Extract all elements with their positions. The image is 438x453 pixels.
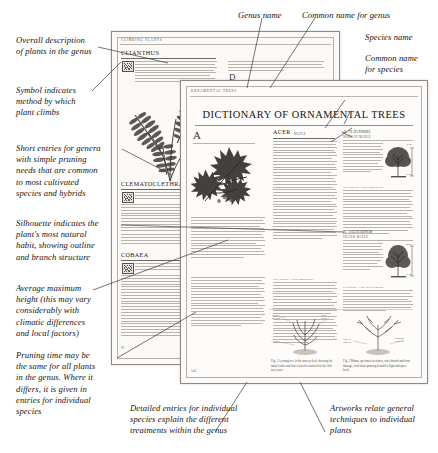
callout-common-name-genus: Common name for genus <box>302 10 390 21</box>
species-rule-1 <box>343 140 413 141</box>
species-text-2 <box>343 243 383 271</box>
genus-head-clematoclethra: CLEMATOCLETHRA <box>121 180 184 187</box>
artwork-caption-fig2: Fig. 2 Mature specimen in winter, after … <box>343 359 413 373</box>
callout-artworks: Artworks relate general techniques to in… <box>330 403 436 437</box>
species-head-platanoides: A. platanoides <box>343 129 371 134</box>
svg-text:wood cut: wood cut <box>395 340 404 343</box>
species-head-saccharinum: A. saccharinum <box>343 229 372 234</box>
callout-common-name-species: Common name for species <box>365 53 435 75</box>
artwork-training-fig1: Removecrossing Mainleader Cut back <box>271 311 339 357</box>
svg-text:leader: leader <box>321 317 327 320</box>
acer-genus-description <box>273 141 337 241</box>
callout-genus-name: Genus name <box>238 10 282 21</box>
book-page-ornamental-trees: ORNAMENTAL TREES DICTIONARY OF ORNAMENTA… <box>180 80 428 384</box>
species-common-name-norway-maple: NORWAY MAPLE <box>343 135 371 139</box>
acer-col1-lower-text <box>191 277 265 328</box>
callout-short-entries: Short entries for genera with simple pru… <box>16 143 126 199</box>
genus-common-name-maple: MAPLE <box>294 132 306 136</box>
callout-species-name: Species name <box>365 32 413 43</box>
artwork-caption-fig1: Fig. 1 A young tree in the nursery bed, … <box>271 359 337 373</box>
species-rule-2 <box>343 240 413 241</box>
svg-text:removed: removed <box>343 341 352 344</box>
subhead-training-pruning-2: TRAINING AND PRUNING <box>273 277 313 281</box>
species-common-name-silver-maple: SILVER MAPLE <box>343 235 368 239</box>
callout-overall-description: Overall description of plants in the gen… <box>16 35 116 57</box>
spread-label-1: 10 m <box>406 173 411 177</box>
subhead-training-pruning: TRAINING AND PRUNING <box>343 185 383 189</box>
header-rule-trees <box>190 96 418 97</box>
spread-label-2: 12 m <box>406 273 411 277</box>
subhead-feeding-watering: FEEDING AND WATERING <box>343 285 384 289</box>
callout-pruning-time: Pruning time may be the same for all pla… <box>16 350 122 417</box>
folio-right: 145 <box>191 369 196 373</box>
callout-silhouette: Silhouette indicates the plant's most na… <box>16 218 130 263</box>
climb-method-symbol-icon-3 <box>122 263 134 274</box>
artwork-training-fig2: Suckersremoved Damagedwood cut <box>343 311 413 357</box>
callout-average-height: Average maximum height (this may vary co… <box>16 283 116 339</box>
title-rule <box>195 125 413 126</box>
callout-symbol-climb-method: Symbol indicates method by which plant c… <box>16 85 116 119</box>
running-head-ornamental-trees: ORNAMENTAL TREES <box>191 89 237 93</box>
acer-rule <box>273 138 335 139</box>
climb-method-symbol-icon <box>122 61 134 72</box>
svg-text:crossing: crossing <box>272 317 281 320</box>
artwork-band-rule <box>269 309 413 310</box>
genus-head-acer: ACER <box>273 129 291 135</box>
header-rule <box>120 44 331 45</box>
page-title-dictionary: DICTIONARY OF ORNAMENTAL TREES <box>195 109 413 120</box>
genus-rule <box>121 58 216 59</box>
running-head-climbing-plants: CLIMBING PLANTS <box>121 38 162 42</box>
svg-text:Cut back: Cut back <box>271 340 280 343</box>
left-page-col2-text <box>228 61 324 72</box>
genus-head-clianthus: CLIANTHUS <box>121 49 159 56</box>
figure-stage: CLIMBING PLANTS CLIANTHUS <box>0 0 438 453</box>
species-text-1 <box>343 143 383 174</box>
acer-col1-text <box>191 217 265 260</box>
height-label-2: 20 m <box>406 243 411 247</box>
artwork-acer-foliage <box>191 139 265 211</box>
height-label-1: 15 m <box>406 143 411 147</box>
callout-detailed-entries: Detailed entries for individual species … <box>130 403 270 437</box>
